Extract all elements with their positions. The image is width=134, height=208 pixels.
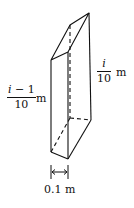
variable-i: i xyxy=(102,57,106,70)
right-height-unit: m xyxy=(116,66,126,79)
hidden-bottom-back-edge xyxy=(70,118,91,120)
width-label: 0.1 m xyxy=(44,183,75,196)
bottom-front-edge xyxy=(51,152,68,159)
prism-diagram: i − 1 10 m i 10 m 0.1 m xyxy=(0,0,134,208)
left-height-denominator: 10 xyxy=(7,99,36,111)
bottom-right-edge xyxy=(68,120,91,159)
right-height-numerator: i xyxy=(97,58,111,70)
right-edge xyxy=(89,13,91,120)
left-height-unit: m xyxy=(36,92,46,105)
right-height-denominator: 10 xyxy=(97,73,111,85)
hidden-bottom-diagonal xyxy=(51,118,70,152)
top-face xyxy=(51,13,89,60)
left-height-fraction: i − 1 10 xyxy=(7,84,36,111)
left-height-numerator: i − 1 xyxy=(7,84,36,96)
right-height-fraction: i 10 xyxy=(97,58,111,85)
numerator-rest: − 1 xyxy=(12,83,35,96)
